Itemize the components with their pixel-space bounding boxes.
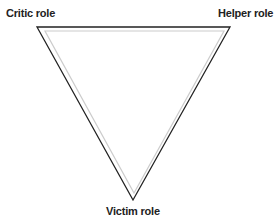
triangle-outline [37, 27, 230, 200]
critic-role-label: Critic role [6, 7, 55, 19]
triangle-inner-shadow [45, 31, 224, 193]
helper-role-label: Helper role [218, 7, 273, 19]
victim-role-label: Victim role [106, 205, 160, 217]
triangle-diagram [0, 0, 278, 224]
